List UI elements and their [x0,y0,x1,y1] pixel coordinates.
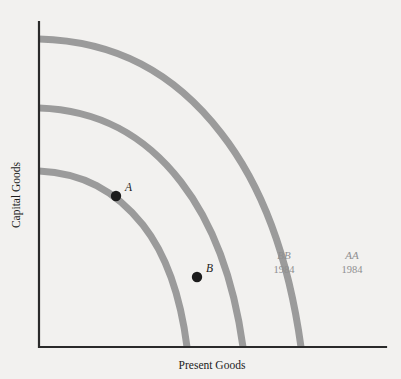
data-point-b [192,272,202,282]
data-point-a-label: A [124,181,133,193]
data-point-b-label: B [206,262,213,274]
curve-label-aa: AA [344,249,359,261]
chart-background [0,0,401,379]
curve-year-aa: 1984 [342,264,364,275]
y-axis-title: Capital Goods [10,161,23,228]
curve-year-bb: 1984 [274,264,296,275]
data-point-a [111,191,121,201]
ppf-chart-figure: A B BB 1984 AA 1984 Present Goods Capita… [0,0,401,379]
x-axis-title: Present Goods [179,359,246,371]
curve-label-bb: BB [277,249,291,261]
ppf-chart-svg: A B BB 1984 AA 1984 Present Goods Capita… [0,0,401,379]
